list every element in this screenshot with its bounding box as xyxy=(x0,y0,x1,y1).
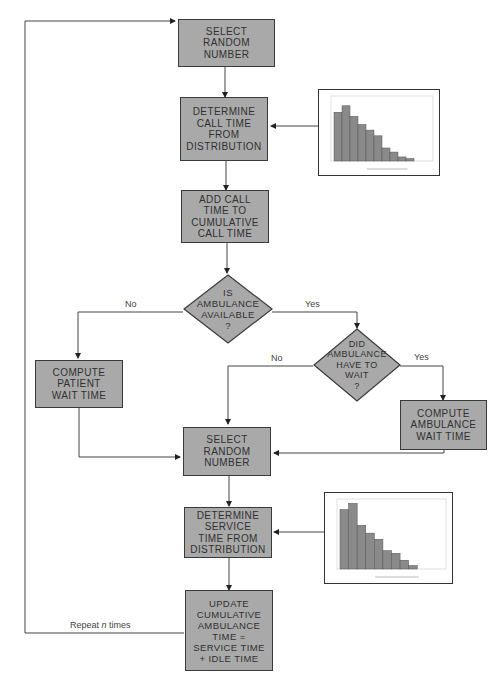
repeat-prefix: Repeat xyxy=(70,620,102,630)
compute-patient-wait-time-box: COMPUTE PATIENT WAIT TIME xyxy=(35,360,123,408)
repeat-label: Repeat n times xyxy=(70,620,131,630)
service-time-histogram xyxy=(324,492,453,584)
no-label-1: No xyxy=(125,299,137,309)
no-label-2: No xyxy=(271,353,283,363)
yes-label-2: Yes xyxy=(414,352,429,362)
yes-label-1: Yes xyxy=(305,299,320,309)
call-time-histogram xyxy=(318,89,440,176)
repeat-suffix: times xyxy=(107,620,131,630)
histogram-svg xyxy=(319,90,439,175)
decision-text: IS AMBULANCE AVAILABLE ? xyxy=(183,274,273,344)
update-cumulative-ambulance-time-box: UPDATE CUMULATIVE AMBULANCE TIME = SERVI… xyxy=(185,590,273,671)
is-ambulance-available-decision: IS AMBULANCE AVAILABLE ? xyxy=(183,274,273,344)
determine-service-time-box: DETERMINE SERVICE TIME FROM DISTRIBUTION xyxy=(184,507,272,558)
determine-call-time-box: DETERMINE CALL TIME FROM DISTRIBUTION xyxy=(180,97,268,161)
did-ambulance-wait-decision: DID AMBULANCE HAVE TO WAIT ? xyxy=(313,328,401,402)
add-call-time-box: ADD CALL TIME TO CUMULATIVE CALL TIME xyxy=(181,190,269,243)
decision-text: DID AMBULANCE HAVE TO WAIT ? xyxy=(313,328,401,402)
select-random-number-box-2: SELECT RANDOM NUMBER xyxy=(183,427,271,476)
select-random-number-box-1: SELECT RANDOM NUMBER xyxy=(178,19,275,67)
compute-ambulance-wait-time-box: COMPUTE AMBULANCE WAIT TIME xyxy=(400,400,487,450)
histogram-svg xyxy=(325,493,452,583)
